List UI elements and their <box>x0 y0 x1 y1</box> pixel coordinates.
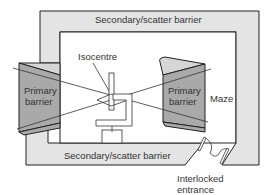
secondary-barrier-top-label: Secondary/scatter barrier <box>95 14 202 25</box>
treatment-room-floor <box>60 32 236 143</box>
bunker-diagram: Secondary/scatter barrier Secondary/scat… <box>0 0 272 195</box>
primary-barrier-left-label-2: barrier <box>25 96 52 107</box>
maze-label: Maze <box>210 93 233 104</box>
isocentre-label: Isocentre <box>78 51 117 62</box>
linac-gantry-head <box>109 73 114 110</box>
entrance-label-1: Interlocked <box>177 173 223 184</box>
primary-barrier-right-label-1: Primary <box>168 85 201 96</box>
secondary-barrier-bottom-label: Secondary/scatter barrier <box>64 150 171 161</box>
primary-barrier-right-label-2: barrier <box>169 96 196 107</box>
primary-barrier-left-label-1: Primary <box>24 85 57 96</box>
entrance-label-2: entrance <box>177 184 214 195</box>
